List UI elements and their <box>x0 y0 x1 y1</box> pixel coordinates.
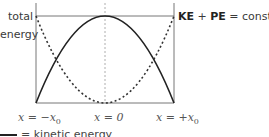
pe-term: PE <box>210 10 226 23</box>
legend: = kinetic energy <box>0 128 112 137</box>
x-label-right-sub: 0 <box>194 117 199 126</box>
x-label-left-sub: 0 <box>56 117 61 126</box>
x-label-right-text: x = +x <box>156 111 194 124</box>
x-label-center: x = 0 <box>94 112 123 124</box>
x-label-right: x = +x0 <box>156 112 199 128</box>
y-label-energy: energy <box>0 29 38 41</box>
plus-sign: + <box>194 10 210 23</box>
equation-label: KE + PE = constant <box>178 11 269 23</box>
equals-constant: = constant <box>226 10 269 23</box>
legend-kinetic-label: = kinetic energy <box>21 128 112 137</box>
x-label-left-text: x = −x <box>18 111 56 124</box>
ke-term: KE <box>178 10 194 23</box>
legend-solid-swatch <box>0 134 17 136</box>
x-label-left: x = −x0 <box>18 112 61 128</box>
y-label-total: total <box>8 11 33 23</box>
